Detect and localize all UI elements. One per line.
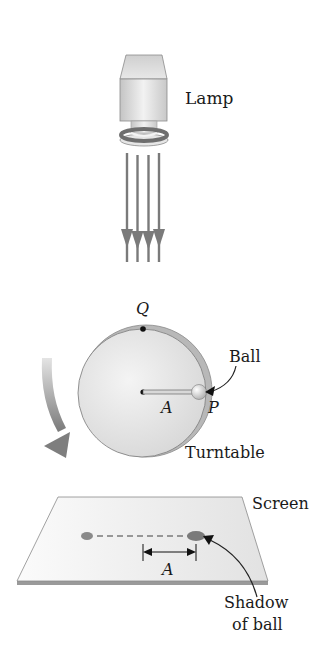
amplitude-label-screen: A (160, 560, 174, 579)
q-label: Q (136, 299, 149, 318)
amplitude-label-turntable: A (159, 398, 173, 417)
arrow-down-icon (143, 231, 155, 250)
turntable (78, 325, 212, 457)
screen-edge (17, 581, 268, 585)
lamp-body (120, 79, 167, 121)
arrow-down-icon (121, 229, 133, 248)
shadow-label-line2: of ball (232, 615, 283, 634)
arrow-down-icon (153, 229, 165, 248)
shadow-label-line1: Shadow (224, 593, 289, 612)
lamp-cap (120, 55, 167, 79)
ball-shadow (187, 531, 205, 541)
screen-label: Screen (252, 494, 309, 513)
turntable-label: Turntable (185, 443, 265, 462)
lamp (120, 55, 168, 262)
screen-surface (17, 497, 268, 581)
shadow-center (81, 532, 93, 540)
ball-rod (143, 390, 195, 394)
lamp-label: Lamp (185, 88, 234, 108)
screen (17, 497, 268, 585)
q-point (140, 326, 146, 332)
ball-label: Ball (229, 347, 261, 366)
arrow-down-icon (132, 231, 144, 250)
turntable-shadow-diagram: Lamp Q A P Ball Turntable (0, 0, 331, 658)
light-rays (127, 153, 159, 262)
rotation-arrow-icon (42, 358, 70, 458)
ball (192, 385, 207, 400)
p-label: P (207, 398, 219, 417)
